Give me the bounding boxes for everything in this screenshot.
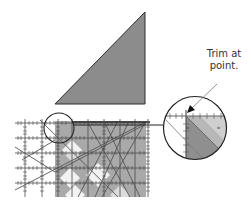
- diagram-canvas: w w: [0, 0, 251, 201]
- callout-label: Trim at point.: [200, 48, 248, 72]
- callout-line-2: point.: [200, 60, 248, 72]
- half-square-triangle: [55, 12, 145, 104]
- fabric-block: [15, 120, 146, 201]
- callout-line-1: Trim at: [200, 48, 248, 60]
- detail-magnifier: w w: [160, 97, 240, 167]
